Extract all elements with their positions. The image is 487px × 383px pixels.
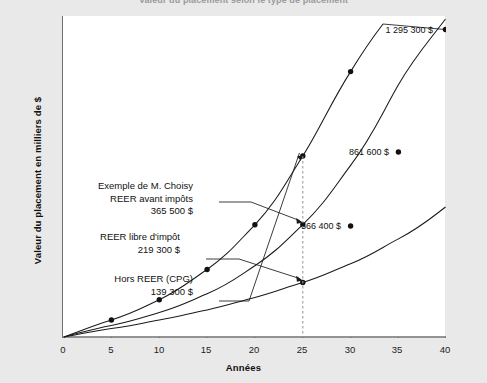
annotation-line: REER avant impôts [45,193,193,206]
data-point-566400 [348,223,353,228]
annotation-reer-avant-impots: Exemple de M. Choisy REER avant impôts 3… [45,180,193,218]
value-label-1295300: 1 295 300 $ [323,25,433,35]
x-tick-label-10: 10 [147,344,171,355]
x-tick-label-25: 25 [290,344,314,355]
annotation-line: REER libre d'impôt [45,231,180,244]
x-tick-label-15: 15 [194,344,218,355]
x-tick-label-0: 0 [51,344,75,355]
annotation-line: 139 300 $ [55,286,193,299]
x-tick-label-5: 5 [99,344,123,355]
data-point [204,267,209,272]
data-point [109,317,114,322]
data-point-1295300 [443,27,446,32]
annotation-line: 365 500 $ [45,205,193,218]
leader-line-1 [219,202,299,221]
y-axis-title: Valeur du placement en milliers de $ [32,81,43,281]
annotation-line: 219 300 $ [45,244,180,257]
x-tick-label-40: 40 [433,344,457,355]
x-tick-label-20: 20 [242,344,266,355]
annotation-arrowheads [296,155,303,282]
annotation-line: Exemple de M. Choisy [45,180,193,193]
leader-line-2 [206,259,299,279]
annotation-reer-libre-impot: REER libre d'impôt 219 300 $ [45,231,180,256]
annotation-hors-reer-cpg: Hors REER (CPG) 139 300 $ [55,273,193,298]
annotation-line: Hors REER (CPG) [55,273,193,286]
x-axis-title: Années [0,362,487,373]
cropped-title-fragment: Valeur du placement selon le type de pla… [0,0,487,7]
x-tick-label-30: 30 [338,344,362,355]
data-point [348,69,353,74]
x-tick-label-35: 35 [385,344,409,355]
labelled-endpoint-markers [348,27,446,229]
data-point-861600 [396,149,401,154]
value-label-861600: 861 600 $ [285,147,389,157]
chart-figure: Valeur du placement selon le type de pla… [0,0,487,383]
value-label-566400: 566 400 $ [237,221,341,231]
cropped-title-text: Valeur du placement selon le type de pla… [0,0,487,6]
